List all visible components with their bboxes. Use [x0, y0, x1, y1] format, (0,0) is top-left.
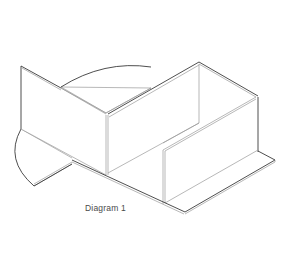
- middle-panel-front-edge: [106, 115, 108, 175]
- isometric-diagram: [0, 0, 304, 253]
- right-box: [108, 62, 258, 207]
- diagram-caption: Diagram 1: [85, 203, 126, 213]
